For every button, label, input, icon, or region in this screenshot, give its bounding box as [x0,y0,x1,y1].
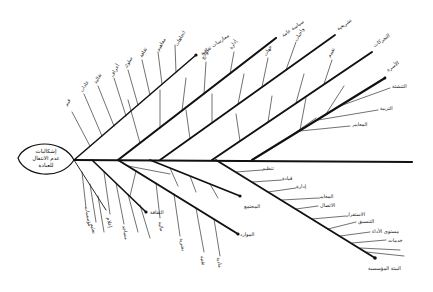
rib-label: الاستقرار [346,212,365,217]
bone-label-lower-2: الموارد [240,232,254,237]
rib-label: الاتصال [320,203,335,208]
rib-label: بشرية [179,238,186,251]
rib-label: التنسيق [358,219,374,224]
rib-label: خدمات [388,238,403,243]
rib-label: قيادة [282,176,292,181]
bone-label-lower-3: المجتمع [244,204,260,209]
bone-label-lower-1: الثقافة [150,210,164,215]
rib-label: التنشئة [392,84,407,89]
rib-label: مادية [216,257,223,268]
problem-head: إشكاليات عدم الانتقال للعبادة [15,148,77,169]
bone-label-lower-4: البيئة المؤسسية [368,266,401,271]
spine [74,160,412,162]
rib-label: المعايير [352,122,367,127]
rib-label: مستوى الأداء [372,229,399,234]
rib-label: التربية [380,106,393,111]
rib-label: مساجد [121,225,128,240]
rib-label: تنظيم [262,166,274,171]
rib-label: تقنية [200,255,207,265]
rib-label: مالية [158,221,165,232]
head-line-1: إشكاليات [15,148,77,155]
rib-label: إعلام [106,217,113,228]
head-line-2: عدم الانتقال [15,155,77,162]
head-line-3: للعبادة [15,162,77,169]
rib-label: تعليم [90,223,97,234]
fishbone-diagram: إشكاليات عدم الانتقال للعبادة ممارسات ثق… [0,0,433,292]
rib-label: المعايير [318,194,333,199]
rib-label: إدارة [296,184,306,189]
